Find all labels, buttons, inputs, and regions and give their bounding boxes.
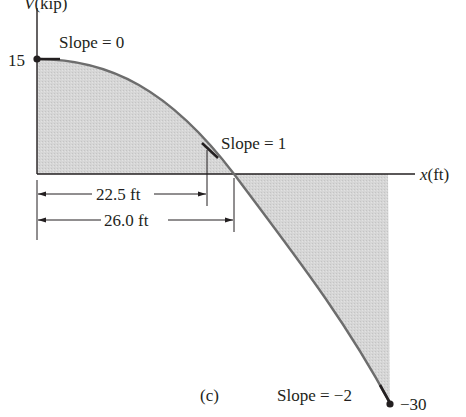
end-point-dot — [386, 400, 393, 407]
start-point-dot — [33, 55, 40, 62]
y-axis-label: V(kip) — [24, 0, 67, 13]
slope-start-label: Slope = 0 — [59, 33, 124, 52]
dim-22-5-arrow-left — [38, 192, 46, 197]
x-axis-label: x(ft) — [419, 165, 449, 184]
slope-end-label: Slope = −2 — [277, 386, 352, 405]
dim-long-label: 26.0 ft — [104, 211, 149, 230]
positive-shear-area — [37, 59, 234, 174]
slope-mid-label: Slope = 1 — [221, 134, 286, 153]
dim-26-0-arrow-left — [38, 218, 46, 223]
dim-26-0-arrow-right — [225, 218, 233, 223]
figure-caption: (c) — [200, 386, 219, 405]
dim-short-label: 22.5 ft — [96, 185, 141, 204]
y-min-value: −30 — [400, 395, 427, 414]
dim-22-5-arrow-right — [198, 192, 206, 197]
y-max-value: 15 — [8, 51, 25, 70]
shear-diagram-figure: V(kip) 15 Slope = 0 Slope = 1 x(ft) 22.5… — [0, 0, 466, 417]
shear-diagram-svg: V(kip) 15 Slope = 0 Slope = 1 x(ft) 22.5… — [0, 0, 466, 417]
negative-shear-area — [234, 174, 390, 403]
